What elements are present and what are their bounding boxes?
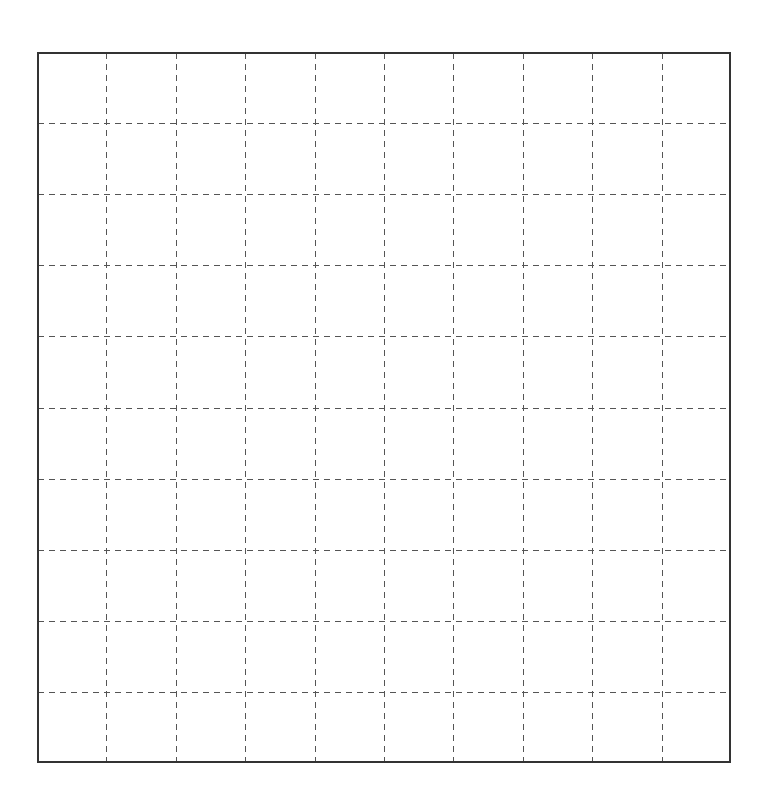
grid-frame (37, 52, 731, 763)
dashed-grid (37, 52, 731, 763)
